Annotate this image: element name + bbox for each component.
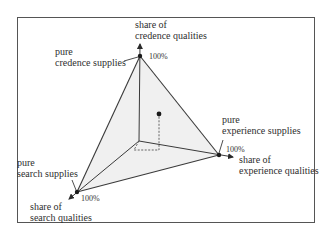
axis-experience-label-line2: experience qualities bbox=[239, 165, 319, 176]
simplex-face bbox=[77, 56, 219, 192]
axis-search-label-line2: search qualities bbox=[30, 212, 92, 223]
vertex-credence-label-line2: credence supplies bbox=[55, 57, 126, 68]
vertex-credence-label-line1: pure bbox=[55, 46, 126, 57]
vertex-experience-label-line2: experience supplies bbox=[222, 125, 301, 136]
leader-credence bbox=[124, 57, 138, 61]
axis-credence-label-line1: share of bbox=[135, 19, 207, 30]
vertex-search-label: pure search supplies bbox=[17, 157, 78, 179]
axis-experience-label: share of experience qualities bbox=[239, 154, 319, 176]
axis-credence-label: share of credence qualities bbox=[135, 19, 207, 41]
vertex-search-label-line1: pure bbox=[17, 157, 78, 168]
vertex-search-marker bbox=[75, 190, 79, 194]
vertex-experience-label-line1: pure bbox=[222, 114, 301, 125]
axis-search-label: share of search qualities bbox=[30, 201, 92, 223]
vertex-search-label-line2: search supplies bbox=[17, 168, 78, 179]
vertex-experience-marker bbox=[217, 153, 221, 157]
axis-credence-label-line2: credence qualities bbox=[135, 30, 207, 41]
leader-experience bbox=[219, 140, 223, 153]
axis-search-label-line1: share of bbox=[30, 201, 92, 212]
axis-experience-max: 100% bbox=[226, 145, 245, 154]
supply-point bbox=[157, 112, 162, 117]
vertex-credence-label: pure credence supplies bbox=[55, 46, 126, 68]
vertex-credence-marker bbox=[138, 54, 142, 58]
leader-search bbox=[72, 180, 76, 190]
axis-credence-max: 100% bbox=[149, 52, 168, 61]
vertex-experience-label: pure experience supplies bbox=[222, 114, 301, 136]
axis-experience-label-line1: share of bbox=[239, 154, 319, 165]
